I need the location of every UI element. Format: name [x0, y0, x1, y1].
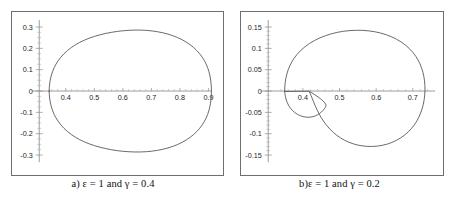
plot-a-svg: 0.3 0.2 0.1 0 -0.1 -0.2 -0.3 0.4 0.5 0.6…	[12, 12, 223, 175]
y-tick-labels-a: 0.3 0.2 0.1 0 -0.1 -0.2 -0.3	[20, 23, 32, 160]
x-ticks-a	[52, 88, 209, 91]
x-tick-label: 0.7	[408, 93, 418, 102]
x-tick-label: 0.9	[203, 93, 213, 102]
y-tick-label: -0.15	[245, 151, 261, 160]
y-tick-label: 0.2	[23, 44, 33, 53]
x-tick-label: 0.8	[175, 93, 185, 102]
caption-panel-b: b)ε = 1 and γ = 0.2	[226, 178, 453, 189]
x-tick-label: 0.6	[371, 93, 381, 102]
y-tick-labels-b: 0.15 0.1 0.05 0 -0.05 -0.1 -0.15	[245, 23, 261, 160]
x-tick-label: 0.4	[298, 93, 308, 102]
x-ticks-b	[281, 88, 428, 91]
y-tick-label: -0.1	[20, 108, 32, 117]
plot-b-svg: 0.15 0.1 0.05 0 -0.05 -0.1 -0.15 0.4 0.5…	[241, 12, 443, 175]
y-tick-label: -0.1	[249, 129, 261, 138]
x-tick-label: 0.5	[335, 93, 345, 102]
x-tick-labels-a: 0.4 0.5 0.6 0.7 0.8 0.9	[61, 93, 214, 102]
orbit-curve-b-outer	[285, 30, 425, 146]
y-tick-label: 0.1	[252, 44, 262, 53]
x-tick-label: 0.5	[89, 93, 99, 102]
plot-frame-a: 0.3 0.2 0.1 0 -0.1 -0.2 -0.3 0.4 0.5 0.6…	[11, 11, 224, 176]
x-tick-label: 0.4	[61, 93, 71, 102]
y-tick-label: 0.3	[23, 23, 33, 32]
y-tick-label: -0.2	[20, 129, 32, 138]
x-tick-label: 0.6	[118, 93, 128, 102]
y-tick-label: -0.3	[20, 151, 32, 160]
y-tick-label: 0	[29, 87, 33, 96]
y-tick-label: 0	[258, 87, 262, 96]
figure-root: 0.3 0.2 0.1 0 -0.1 -0.2 -0.3 0.4 0.5 0.6…	[0, 0, 453, 201]
plot-frame-b: 0.15 0.1 0.05 0 -0.05 -0.1 -0.15 0.4 0.5…	[240, 11, 444, 176]
x-tick-label: 0.7	[146, 93, 156, 102]
caption-panel-a: a) ε = 1 and γ = 0.4	[0, 178, 226, 189]
y-tick-label: 0.05	[248, 65, 262, 74]
x-tick-labels-b: 0.4 0.5 0.6 0.7	[298, 93, 418, 102]
y-tick-label: 0.15	[248, 23, 262, 32]
y-tick-label: 0.1	[23, 65, 33, 74]
y-tick-label: -0.05	[245, 108, 261, 117]
